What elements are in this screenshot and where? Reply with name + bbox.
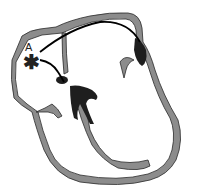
heart-diagram <box>0 0 197 196</box>
pathway-upper <box>40 22 140 52</box>
label-star: ✱ <box>23 52 40 72</box>
conduction-dark-regions <box>56 38 147 124</box>
septum <box>36 33 150 170</box>
